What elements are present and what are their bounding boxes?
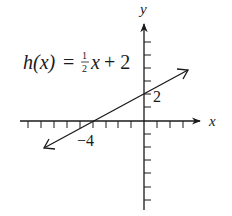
x-axis-ticks — [28, 121, 183, 128]
x-axis-label: x — [208, 113, 216, 129]
equation-constant: + 2 — [104, 51, 130, 73]
equation-equals: = — [63, 51, 74, 73]
equation-function-name: h(x) — [23, 51, 56, 74]
arrowhead-upper-icon — [177, 69, 188, 79]
equation-fraction-numerator: 1 — [82, 50, 87, 61]
equation-label: h(x) = 1 2 x + 2 — [23, 50, 130, 74]
y-intercept-label: 2 — [153, 88, 161, 105]
function-line-h — [44, 69, 188, 149]
arrowhead-lower-icon — [44, 139, 55, 149]
function-graph: y x −4 2 h(x) = 1 2 x + 2 — [0, 0, 232, 216]
equation-fraction-denominator: 2 — [82, 63, 87, 74]
x-intercept-label: −4 — [77, 132, 94, 149]
y-axis-label: y — [138, 1, 147, 17]
equation-variable: x — [90, 51, 100, 73]
